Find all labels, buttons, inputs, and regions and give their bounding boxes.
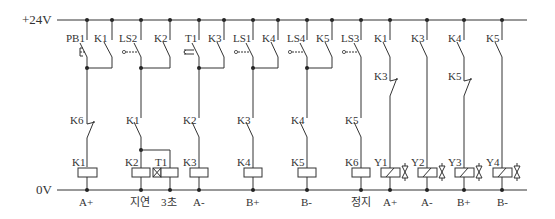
- contact-label-k5-r6: K5: [345, 114, 359, 126]
- rung-1: PB1 K1 K6 K1 A+: [66, 20, 112, 208]
- relay-coil-k1-icon: [78, 168, 97, 177]
- top-bus: +24V: [22, 12, 527, 27]
- timer-coil-t1-icon: [153, 168, 178, 177]
- output-label-y4-b-minus: B-: [497, 196, 508, 208]
- rung-6: LS3 K5 K6 정지: [341, 20, 371, 208]
- limit-switch-ls4-icon: [288, 50, 304, 53]
- output-label-a-minus: A-: [193, 196, 205, 208]
- contact-label-ls4: LS4: [287, 32, 306, 44]
- output-label-b-minus: B-: [301, 196, 312, 208]
- output-label-a-plus: A+: [79, 196, 93, 208]
- coil-label-t1: T1: [155, 156, 167, 168]
- contact-label-pb1: PB1: [66, 32, 85, 44]
- coil-label-k3: K3: [183, 156, 197, 168]
- relay-coil-k4-icon: [244, 168, 262, 177]
- contact-label-k3-r4: K3: [237, 114, 251, 126]
- output-label-stop: 정지: [351, 196, 371, 208]
- contact-label-k6: K6: [70, 114, 84, 126]
- no-contact-k1: [104, 42, 112, 57]
- contact-label-k2-r3: K2: [183, 114, 196, 126]
- rung-5: LS4 K5 K4 K5 B-: [287, 20, 332, 208]
- coil-label-k6: K6: [345, 156, 359, 168]
- rung-3: T1 K3 K2 K3 A-: [183, 20, 224, 208]
- coil-label-y3: Y3: [448, 156, 462, 168]
- output-label-3sec: 3초: [161, 196, 177, 208]
- rung-4: LS1 K4 K3 K4 B+: [233, 20, 278, 208]
- timer-contact-t1-icon: [184, 50, 194, 54]
- rung-8: K3 Y2 A-: [411, 20, 445, 208]
- relay-coil-k6-icon: [352, 168, 370, 177]
- no-contact-pb1: [80, 43, 87, 57]
- nc-contact-k3-icon: [390, 76, 398, 96]
- bottom-bus-label: 0V: [36, 182, 53, 197]
- nc-contact-k6-icon: [87, 118, 95, 138]
- contact-label-k5: K5: [316, 32, 330, 44]
- contact-label-ls1: LS1: [233, 32, 251, 44]
- contact-label-k3-r8: K3: [411, 32, 425, 44]
- contact-label-t1: T1: [185, 32, 197, 44]
- top-bus-label: +24V: [22, 12, 52, 27]
- output-label-y2-a-minus: A-: [421, 196, 433, 208]
- relay-coil-k5-icon: [298, 168, 316, 177]
- contact-label-k2: K2: [154, 32, 167, 44]
- rung-9: K4 K5 Y3 B+: [448, 20, 482, 208]
- output-label-y3-b-plus: B+: [457, 196, 471, 208]
- limit-switch-ls2-icon: [122, 50, 138, 53]
- contact-label-ls3: LS3: [341, 32, 360, 44]
- coil-label-y4: Y4: [486, 156, 500, 168]
- output-label-delay: 지연: [130, 196, 150, 208]
- contact-label-k5-r10: K5: [486, 32, 500, 44]
- contact-label-k4-r9: K4: [448, 32, 462, 44]
- nc-contact-k5-icon: [464, 76, 472, 96]
- contact-label-k3-nc-r7: K3: [374, 70, 388, 82]
- coil-label-k1: K1: [72, 156, 85, 168]
- limit-switch-ls1-icon: [234, 50, 250, 53]
- rung-10: K5 Y4 B-: [486, 20, 520, 208]
- rung-2: LS2 K2 K1 K2 T1 지연: [119, 20, 178, 208]
- output-label-y1-a-plus: A+: [383, 196, 397, 208]
- coil-label-k4: K4: [237, 156, 251, 168]
- contact-label-k4: K4: [262, 32, 276, 44]
- contact-label-k3: K3: [208, 32, 222, 44]
- rung-7: K1 K3 Y1 A+: [374, 20, 408, 208]
- bottom-bus: 0V: [36, 182, 527, 197]
- limit-switch-ls3-icon: [342, 50, 358, 53]
- contact-label-k1-r7: K1: [374, 32, 387, 44]
- output-label-b-plus: B+: [246, 196, 260, 208]
- coil-label-k2: K2: [125, 156, 138, 168]
- coil-label-y2: Y2: [411, 156, 424, 168]
- ladder-diagram: +24V 0V PB1 K1: [0, 0, 555, 219]
- contact-label-k5-nc-r9: K5: [448, 70, 462, 82]
- contact-label-ls2: LS2: [119, 32, 137, 44]
- relay-coil-k3-icon: [190, 168, 208, 177]
- contact-label-k4-r5: K4: [291, 114, 305, 126]
- coil-label-k5: K5: [291, 156, 305, 168]
- relay-coil-k2-icon: [132, 168, 150, 177]
- coil-label-y1: Y1: [374, 156, 387, 168]
- contact-label-k1: K1: [94, 32, 107, 44]
- contact-label-k1-r2: K1: [126, 114, 139, 126]
